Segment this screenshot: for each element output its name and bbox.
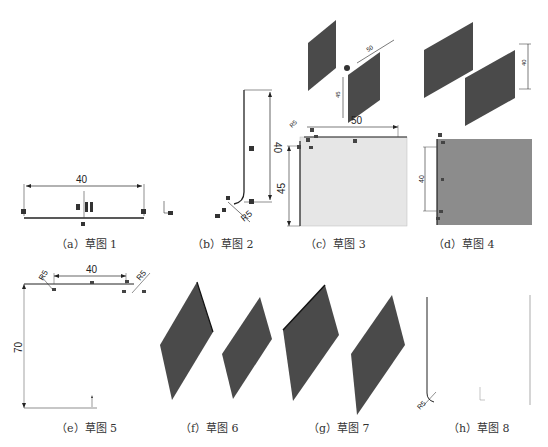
sheet-fill-light [300, 137, 407, 226]
panel-b-sketch-2: 40 R5 （b）草图 2 [190, 0, 280, 250]
sheet-left [160, 282, 213, 400]
dim-height-45: 45 [276, 182, 287, 194]
caption-d: （d）草图 4 [433, 235, 495, 251]
iso-dim-height: 40 [521, 59, 527, 66]
panel-c-sketch-3: 50 45 50 45 R5 （c）草图 3 [280, 0, 415, 250]
dim-width-50: 50 [351, 115, 363, 126]
sketch-1-drawing: 40 [0, 0, 190, 250]
caption-b: （b）草图 2 [192, 235, 254, 251]
sketch-2-drawing: 40 R5 [190, 0, 280, 250]
iso-sheet-left [308, 20, 336, 91]
dim-radius-left: R5 [37, 268, 50, 282]
caption-g: （g）草图 7 [308, 419, 370, 435]
dim-radius-right: R5 [135, 268, 149, 282]
caption-f: （f）草图 6 [180, 419, 239, 435]
sketch-3-drawing: 50 45 50 45 R5 [280, 0, 415, 250]
iso-dim-height: 45 [335, 91, 341, 98]
dim-radius-r5: R5 [239, 208, 254, 223]
sheet-fill-dark [437, 139, 532, 225]
caption-h: （h）草图 8 [448, 419, 510, 435]
caption-c: （c）草图 3 [305, 235, 366, 251]
panel-g-sketch-7: （g）草图 7 [275, 255, 420, 447]
panel-f-sketch-6: （f）草图 6 [150, 255, 280, 447]
dim-width-40: 40 [76, 174, 88, 185]
dim-height-70: 70 [13, 341, 24, 353]
sheet-right [351, 295, 405, 415]
caption-e: （e）草图 5 [56, 419, 117, 435]
iso-dim-width: 50 [365, 44, 374, 53]
panel-h-sketch-8: R5 （h）草图 8 [420, 255, 548, 447]
panel-a-sketch-1: 40 （a）草图 1 [0, 0, 190, 250]
panel-e-sketch-5: 40 70 R5 R5 （e）草图 5 [0, 255, 160, 447]
dim-radius-r5: R5 [288, 119, 298, 129]
sheet-right [222, 297, 272, 399]
sketch-4-drawing: 40 40 [415, 0, 548, 250]
dim-height-40: 40 [418, 175, 425, 183]
dim-width-40: 40 [86, 264, 98, 275]
caption-a: （a）草图 1 [56, 235, 117, 251]
iso-sheet-right [348, 52, 380, 123]
sheet-left [283, 285, 339, 401]
panel-d-sketch-4: 40 40 （d）草图 4 [415, 0, 548, 250]
